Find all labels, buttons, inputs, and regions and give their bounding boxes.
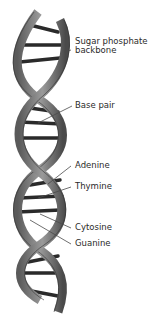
- label-base-pair: Base pair: [75, 101, 115, 110]
- label-line-2: backbone: [75, 46, 148, 55]
- label-sugar-phosphate-backbone: Sugar phosphate backbone: [75, 37, 148, 55]
- label-guanine: Guanine: [75, 239, 111, 248]
- label-adenine: Adenine: [75, 161, 110, 170]
- dna-diagram: Sugar phosphate backbone Base pair Adeni…: [0, 0, 156, 319]
- label-thymine: Thymine: [75, 182, 112, 191]
- label-cytosine: Cytosine: [75, 223, 112, 232]
